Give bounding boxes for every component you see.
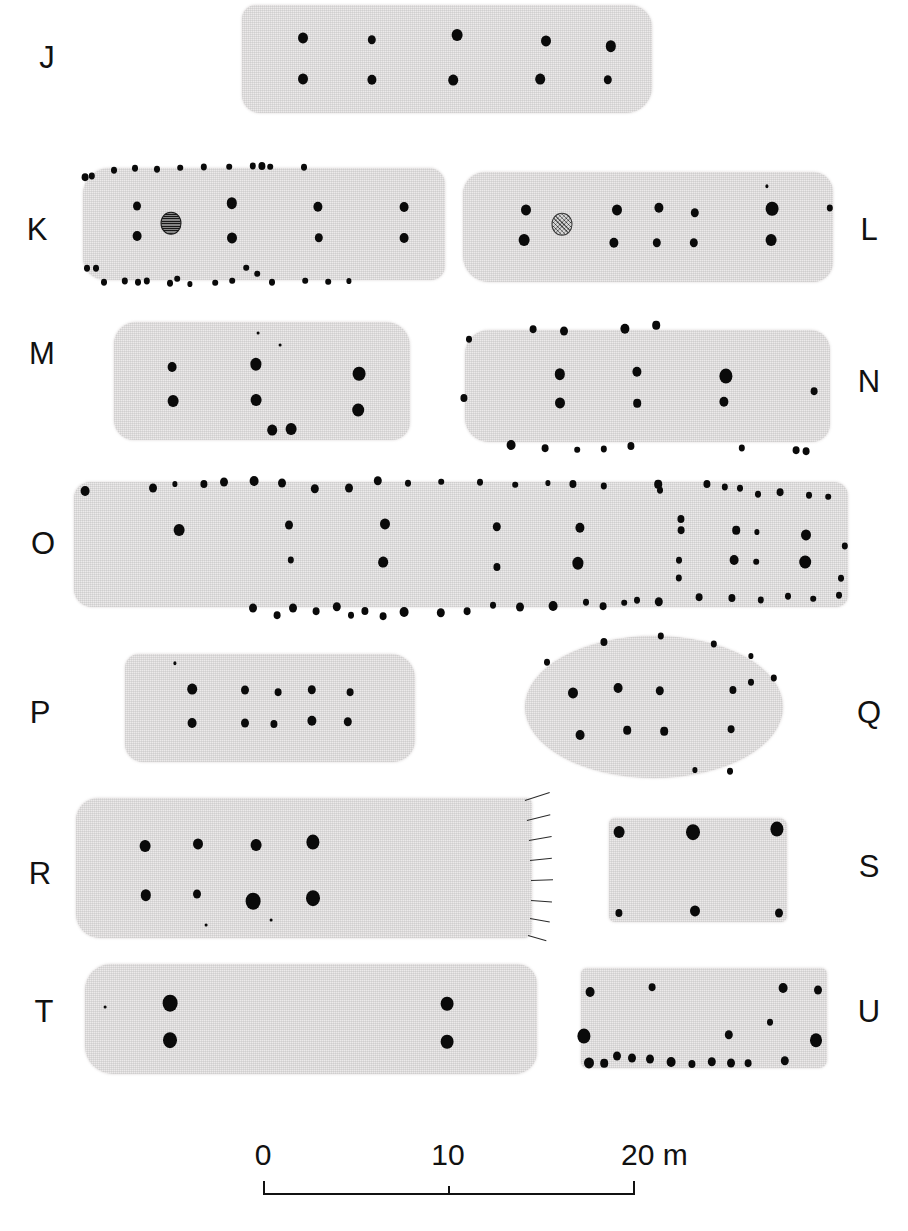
scale-tick-label: 20 m (621, 1140, 688, 1170)
scale-tick (448, 1186, 450, 1195)
scale-bar: 01020 m (0, 0, 908, 1231)
scale-tick (263, 1181, 265, 1195)
scale-tick-label: 0 (255, 1140, 272, 1170)
site-plan-figure: JKLMNOPQRSTU 01020 m (0, 0, 908, 1231)
scale-tick-label: 10 (431, 1140, 464, 1170)
scale-tick (633, 1181, 635, 1195)
